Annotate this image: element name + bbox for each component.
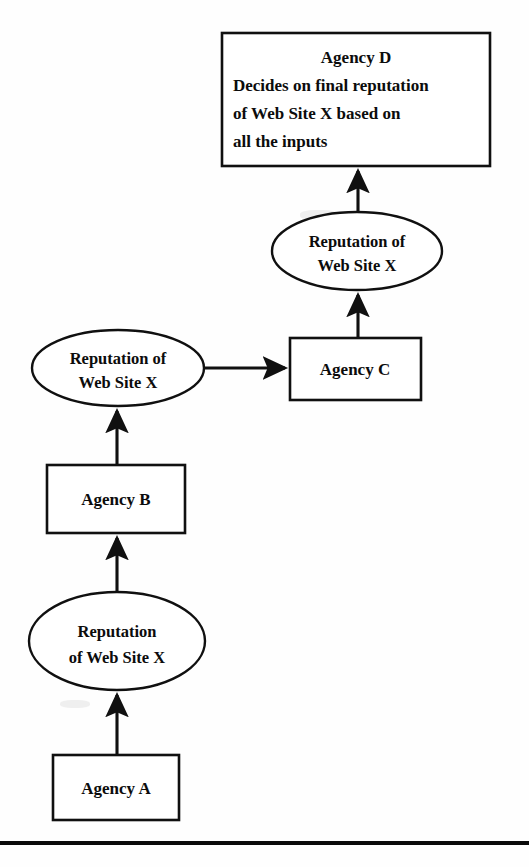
node-reputation-middle-line-1: Reputation of (70, 349, 167, 368)
node-agency-d-heading: Agency D (321, 48, 391, 67)
node-agency-d-line-1: Decides on final reputation (233, 76, 429, 95)
node-agency-d-line-3: all the inputs (233, 132, 328, 151)
node-reputation-bottom (29, 592, 205, 690)
node-reputation-middle-line-2: Web Site X (79, 373, 158, 392)
node-reputation-top-line-1: Reputation of (309, 232, 406, 251)
node-reputation-bottom-line-2: of Web Site X (69, 648, 165, 667)
node-reputation-top (272, 212, 442, 290)
node-agency-c-label: Agency C (320, 360, 390, 379)
flowchart-svg: Agency D Decides on final reputation of … (0, 0, 529, 867)
node-reputation-bottom-line-1: Reputation (78, 622, 157, 641)
node-reputation-middle (32, 330, 204, 406)
node-agency-b-label: Agency B (81, 490, 150, 509)
node-agency-a-label: Agency A (81, 779, 151, 798)
node-agency-d-line-2: of Web Site X based on (233, 104, 401, 123)
node-reputation-top-line-2: Web Site X (318, 256, 397, 275)
diagram-canvas: Agency D Decides on final reputation of … (0, 0, 529, 867)
